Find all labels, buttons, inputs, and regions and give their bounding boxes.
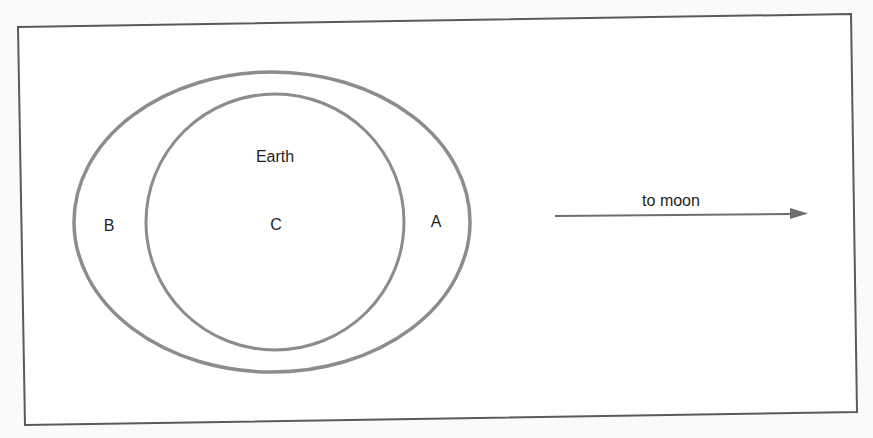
bulge-label-b: B [104,217,115,234]
bulge-label-a: A [431,213,442,230]
earth-moon-tide-diagram: Earth C A B to moon [0,0,873,438]
earth-label: Earth [256,148,294,165]
center-label-c: C [270,216,282,233]
to-moon-label: to moon [642,192,700,209]
